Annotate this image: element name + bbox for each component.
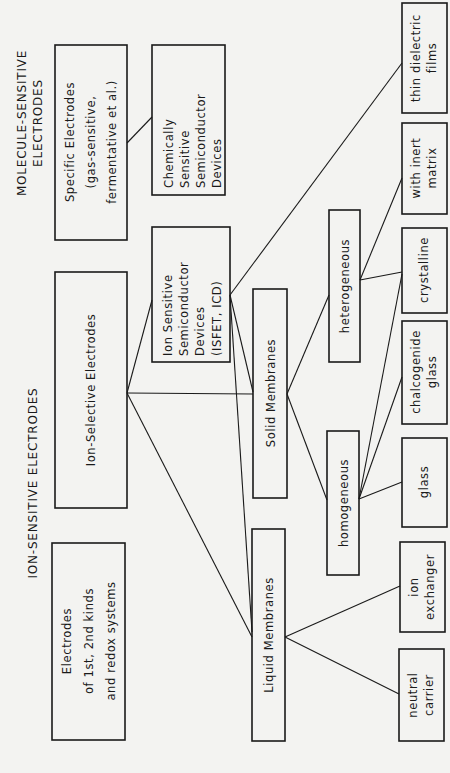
node-thin-dielectric-films: thin dielectric films [402, 3, 447, 113]
edge-liquid-to-neutral-carrier [285, 637, 399, 694]
node-homogeneous: homogeneous [327, 431, 359, 575]
node-label: and redox systems [104, 581, 118, 700]
node-electrodes-1st-2nd-kinds: Electrodes of 1st, 2nd kinds and redox s… [52, 543, 125, 740]
edge-homogeneous-to-crystalline [359, 274, 402, 499]
node-glass: glass [402, 438, 447, 527]
node-label: homogeneous [337, 459, 351, 547]
node-label: with inert [409, 138, 423, 199]
node-label: (gas-sensitive, [84, 96, 98, 189]
node-neutral-carrier: neutral carrier [399, 649, 444, 741]
node-label: Devices [210, 138, 224, 188]
node-label: Devices [193, 306, 207, 356]
title-line: ELECTRODES [31, 79, 45, 167]
node-label: Electrodes [60, 608, 74, 674]
node-chalcogenide-glass: chalcogenide glass [402, 321, 447, 424]
node-label: neutral [406, 672, 420, 717]
edge-solid-to-heterogeneous [287, 295, 329, 394]
edge-homogeneous-to-chalcogenide [359, 377, 402, 499]
classification-diagram: MOLECULE-SENSITIVE ELECTRODES ION-SENSIT… [0, 0, 450, 773]
node-label: glass [425, 356, 439, 389]
title-ion-sensitive: ION-SENSITIVE ELECTRODES [26, 387, 40, 578]
node-label: fermentative et al.) [105, 80, 119, 204]
node-label: Ion-Selective Electrodes [84, 314, 98, 467]
node-label: exchanger [423, 554, 437, 620]
edge-solid-to-homogeneous [287, 394, 327, 500]
edge-heterogeneous-to-crystalline [360, 272, 402, 280]
node-label: of 1st, 2nd kinds [82, 588, 96, 694]
title-line: MOLECULE-SENSITIVE [15, 50, 29, 196]
node-with-inert-matrix: with inert matrix [402, 123, 447, 214]
edge-ionselective-to-liquid [127, 393, 252, 637]
node-label: Sensitive [178, 130, 192, 188]
edge-heterogeneous-to-inert [360, 178, 402, 280]
node-ion-selective-electrodes: Ion-Selective Electrodes [55, 272, 127, 508]
node-label: Solid Membranes [264, 339, 278, 447]
edge-isfet-to-liquid [230, 295, 252, 632]
node-liquid-membranes: Liquid Membranes [252, 529, 285, 741]
node-label: Liquid Membranes [262, 577, 276, 693]
node-label: chalcogenide [409, 330, 423, 414]
node-label: carrier [422, 674, 436, 716]
node-label: glass [417, 466, 431, 499]
edge-liquid-to-ion-exchanger [285, 586, 400, 637]
node-label: (ISFET, ICD) [210, 281, 224, 356]
title-molecule-sensitive: MOLECULE-SENSITIVE ELECTRODES [15, 50, 45, 196]
node-label: Chemically [162, 119, 176, 188]
node-label: matrix [425, 147, 439, 188]
edge-isfet-to-thin-dielectric [230, 63, 402, 295]
node-label: crystalline [417, 237, 431, 303]
node-label: Semiconductor [177, 262, 191, 356]
node-heterogeneous: heterogeneous [329, 210, 360, 362]
node-ion-exchanger: ion exchanger [400, 542, 445, 632]
node-crystalline: crystalline [402, 228, 447, 313]
node-solid-membranes: Solid Membranes [253, 289, 287, 498]
node-label: films [425, 43, 439, 74]
node-label: Semiconductor [194, 94, 208, 188]
node-specific-electrodes: Specific Electrodes (gas-sensitive, ferm… [55, 45, 127, 240]
node-ion-sensitive-semiconductor: Ion Sensitive Semiconductor Devices (ISF… [152, 227, 230, 362]
node-label: ion [407, 577, 421, 596]
node-label: thin dielectric [409, 14, 423, 102]
node-label: Ion Sensitive [161, 274, 175, 356]
edge-ionselective-to-isfet [127, 300, 152, 393]
edge-specific-to-chemically [127, 117, 152, 143]
node-label: heterogeneous [338, 239, 352, 333]
edge-homogeneous-to-glass [359, 482, 402, 499]
node-chemically-sensitive-devices: Chemically Sensitive Semiconductor Devic… [152, 45, 225, 195]
title-line: ION-SENSITIVE ELECTRODES [26, 387, 40, 578]
node-label: Specific Electrodes [63, 82, 77, 202]
edge-ionselective-to-solid [127, 393, 253, 394]
